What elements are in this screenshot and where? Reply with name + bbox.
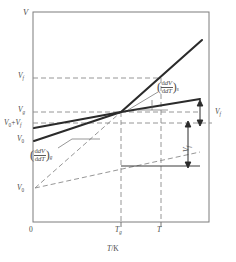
y-tick-label-v-f: Vf	[18, 72, 24, 81]
figure-container: V Vf Vg V0+Vf V0 V0 (ddVddT)s (ddVddT)g …	[0, 0, 236, 262]
axis-ticks	[121, 222, 161, 227]
annotation-slope-liquid: (ddVddT)s	[157, 80, 179, 95]
y-axis-label: V	[23, 8, 28, 17]
occupied-volume-dashed-line	[35, 152, 200, 188]
measure-label-v-f-vertical: Vf	[183, 146, 192, 152]
x-axis-label: T/K	[107, 245, 119, 253]
y-tick-label-v-g: Vg	[18, 106, 25, 115]
plot-svg	[0, 0, 236, 262]
y-tick-label-v0-plus-vf: V0+Vf	[4, 119, 21, 128]
measure-label-v-f-right: Vf	[215, 108, 221, 117]
y-tick-label-v-0-upper: V0	[17, 135, 24, 144]
y-tick-label-v-0-lower: V0	[17, 184, 24, 193]
v-f-gap-arrow-head-up	[197, 100, 203, 106]
slope-glass-leader	[58, 139, 72, 148]
x-tick-label-t-g: Tg	[115, 226, 122, 235]
annotation-slope-glass: (ddVddT)g	[30, 148, 52, 163]
x-tick-label-t: T	[157, 226, 161, 234]
v-f-span-arrow-head-up	[185, 121, 191, 127]
glass-branch-line	[34, 99, 200, 128]
v-f-span-arrow-head-down	[185, 162, 191, 168]
x-origin-label: 0	[29, 226, 33, 234]
measure-arrows	[185, 100, 203, 168]
